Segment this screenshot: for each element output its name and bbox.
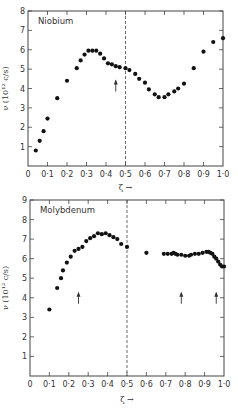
- x-tick-label: 1·0: [217, 170, 230, 179]
- data-point: [55, 286, 59, 290]
- data-point: [75, 66, 79, 70]
- data-point: [100, 232, 104, 236]
- data-point: [176, 86, 180, 90]
- y-tick-label: 8: [22, 216, 27, 225]
- y-axis-title: ν (10¹² c/s): [1, 266, 10, 310]
- x-tick-label: 0·1: [43, 380, 56, 389]
- x-tick-label: 0·3: [80, 170, 93, 179]
- y-tick-label: 3: [20, 104, 25, 113]
- data-point: [118, 65, 122, 69]
- panel-title: Molybdenum: [40, 205, 95, 215]
- data-point: [79, 58, 83, 62]
- data-point: [111, 235, 115, 239]
- data-point: [147, 87, 151, 91]
- data-point: [127, 68, 131, 72]
- y-tick-label: 4: [22, 294, 27, 303]
- data-point: [59, 276, 63, 280]
- y-tick-label: 4: [20, 85, 25, 94]
- data-point: [102, 56, 106, 60]
- data-point: [222, 264, 226, 268]
- x-tick-label: 0: [25, 170, 30, 179]
- data-point: [84, 239, 88, 243]
- data-point: [80, 245, 84, 249]
- data-point: [69, 255, 73, 259]
- y-tick-label: 7: [22, 235, 27, 244]
- data-point: [157, 95, 161, 99]
- x-tick-label: 0·9: [198, 380, 211, 389]
- data-point: [201, 251, 205, 255]
- x-tick-label: 0·5: [119, 170, 132, 179]
- y-tick-label: 2: [22, 333, 27, 342]
- y-tick-label: 6: [22, 255, 27, 264]
- y-tick-label: 3: [22, 313, 27, 322]
- y-tick-label: 8: [20, 7, 25, 16]
- data-point: [94, 49, 98, 53]
- data-point: [162, 252, 166, 256]
- x-tick-label: 0·7: [158, 170, 171, 179]
- y-axis-title: ν (10¹² c/s): [1, 66, 10, 110]
- data-point: [90, 49, 94, 53]
- y-tick-label: 9: [22, 196, 27, 205]
- data-point: [47, 307, 51, 311]
- x-tick-label: 0·6: [139, 170, 152, 179]
- data-point: [92, 234, 96, 238]
- panel-niobium: 00·10·20·30·40·50·60·70·80·91·012345678N…: [1, 7, 229, 192]
- data-point: [172, 89, 176, 93]
- x-tick-label: 0·4: [100, 170, 113, 179]
- data-point: [42, 129, 46, 133]
- data-point: [162, 95, 166, 99]
- data-point: [34, 148, 38, 152]
- data-point: [123, 66, 127, 70]
- x-tick-label: 0·5: [121, 380, 134, 389]
- x-tick-label: 0·8: [178, 170, 191, 179]
- data-point: [201, 50, 205, 54]
- data-point: [193, 252, 197, 256]
- y-tick-label: 6: [20, 46, 25, 55]
- data-point: [166, 92, 170, 96]
- panel-title: Niobium: [38, 16, 73, 26]
- data-point: [55, 96, 59, 100]
- data-point: [192, 66, 196, 70]
- data-point: [106, 61, 110, 65]
- data-point: [76, 247, 80, 251]
- data-point: [110, 62, 114, 66]
- y-tick-label: 7: [20, 26, 25, 35]
- data-point: [96, 231, 100, 235]
- data-point: [82, 52, 86, 56]
- y-tick-label: 1: [22, 352, 27, 361]
- x-tick-label: 0·6: [140, 380, 153, 389]
- data-point: [153, 92, 157, 96]
- data-point: [73, 249, 77, 253]
- data-point: [197, 252, 201, 256]
- x-tick-label: 0·4: [101, 380, 114, 389]
- data-point: [107, 233, 111, 237]
- data-point: [115, 237, 119, 241]
- data-point: [143, 81, 147, 85]
- y-tick-label: 5: [20, 65, 25, 74]
- x-tick-label: 0: [27, 380, 32, 389]
- data-point: [104, 231, 108, 235]
- x-tick-label: 0·8: [179, 380, 192, 389]
- data-point: [175, 253, 179, 257]
- x-tick-label: 0·3: [82, 380, 95, 389]
- x-tick-label: 0·2: [62, 380, 75, 389]
- data-point: [221, 36, 225, 40]
- data-point: [98, 52, 102, 56]
- data-point: [137, 77, 141, 81]
- data-point: [61, 268, 65, 272]
- phonon-dispersion-figure: 00·10·20·30·40·50·60·70·80·91·012345678N…: [0, 0, 238, 411]
- data-point: [65, 260, 69, 264]
- data-point: [211, 40, 215, 44]
- data-point: [119, 242, 123, 246]
- y-tick-label: 1: [20, 143, 25, 152]
- data-point: [125, 245, 129, 249]
- data-point: [88, 236, 92, 240]
- x-axis-title: ζ →: [119, 183, 133, 192]
- data-point: [65, 79, 69, 83]
- panel-molybdenum: 00·10·20·30·40·50·60·70·80·91·0123456789…: [1, 196, 230, 404]
- data-point: [183, 254, 187, 258]
- data-point: [144, 251, 148, 255]
- data-point: [182, 82, 186, 86]
- data-point: [38, 139, 42, 143]
- x-tick-label: 0·2: [61, 170, 74, 179]
